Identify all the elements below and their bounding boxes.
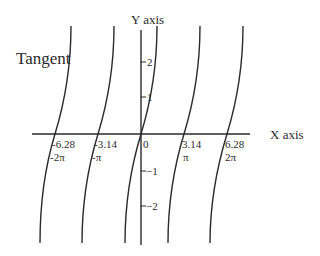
y-tick-label-neg2: −2 bbox=[146, 201, 158, 212]
x-tick-symbol-negpi: -π bbox=[92, 152, 101, 163]
x-tick-value-negpi: -3.14 bbox=[94, 139, 117, 150]
x-tick-value-neg2pi: -6.28 bbox=[52, 139, 75, 150]
x-tick-value-pi: 3.14 bbox=[182, 139, 201, 150]
x-tick-value-0: 0 bbox=[143, 139, 149, 150]
y-axis-label: Y axis bbox=[131, 13, 164, 26]
x-tick-symbol-pi: π bbox=[183, 152, 189, 163]
y-tick-label-neg1: −1 bbox=[146, 166, 158, 177]
x-tick-symbol-neg2pi: -2π bbox=[50, 152, 65, 163]
y-tick-label-1: 1 bbox=[147, 92, 153, 103]
x-axis-label: X axis bbox=[270, 128, 304, 141]
x-tick-symbol-2pi: 2π bbox=[225, 152, 236, 163]
chart-title: Tangent bbox=[16, 50, 71, 67]
x-tick-value-2pi: 6.28 bbox=[225, 139, 244, 150]
y-tick-label-2: 2 bbox=[147, 57, 153, 68]
